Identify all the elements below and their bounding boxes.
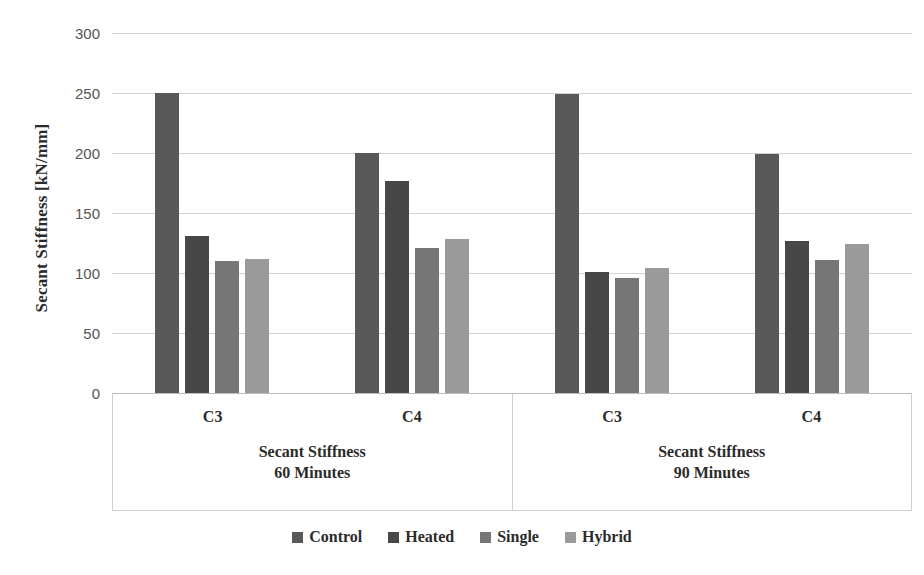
category-label-c4: C4 [712,394,911,440]
y-tick-label-100: 100 [75,265,100,282]
bar-heated-cat3 [785,241,809,393]
category-label-c3: C3 [113,394,312,440]
category-label-c3: C3 [513,394,712,440]
bars-layer [112,33,912,393]
y-tick-label-250: 250 [75,85,100,102]
bar-hybrid-cat3 [845,244,869,393]
legend-item-heated[interactable]: Heated [388,528,454,546]
bar-control-cat3 [755,154,779,393]
legend-swatch-icon [388,532,399,543]
bar-control-cat1 [355,153,379,393]
category-inner-row: C3C4 [513,394,912,440]
category-inner-row: C3C4 [113,394,512,440]
category-group-1: C3C4Secant Stiffness90 Minutes [512,394,912,510]
category-group-label-line1: Secant Stiffness [259,443,366,460]
chart-legend: ControlHeatedSingleHybrid [0,528,924,546]
y-axis-title: Secant Stiffness [kN/mm] [32,58,52,378]
y-tick-label-300: 300 [75,25,100,42]
category-group-label: Secant Stiffness60 Minutes [113,440,512,510]
bar-heated-cat0 [185,236,209,393]
legend-swatch-icon [480,532,491,543]
y-tick-label-200: 200 [75,145,100,162]
y-tick-label-0: 0 [92,385,100,402]
y-tick-label-50: 50 [83,325,100,342]
category-group-0: C3C4Secant Stiffness60 Minutes [113,394,512,510]
category-label-c4: C4 [312,394,511,440]
legend-swatch-icon [292,532,303,543]
bar-heated-cat1 [385,181,409,393]
y-tick-label-150: 150 [75,205,100,222]
legend-item-control[interactable]: Control [292,528,362,546]
category-axis: C3C4Secant Stiffness60 MinutesC3C4Secant… [112,393,912,511]
secant-stiffness-bar-chart: Secant Stiffness [kN/mm] 300250200150100… [0,0,924,575]
legend-item-single[interactable]: Single [480,528,539,546]
category-group-label-line1: Secant Stiffness [658,443,765,460]
bar-single-cat2 [615,278,639,393]
category-group-label: Secant Stiffness90 Minutes [513,440,912,510]
bar-single-cat3 [815,260,839,393]
bar-hybrid-cat1 [445,239,469,393]
legend-label: Hybrid [582,528,632,546]
bar-control-cat0 [155,93,179,393]
bar-control-cat2 [555,94,579,393]
legend-swatch-icon [565,532,576,543]
legend-label: Heated [405,528,454,546]
legend-label: Control [309,528,362,546]
bar-hybrid-cat2 [645,268,669,393]
bar-hybrid-cat0 [245,259,269,393]
category-group-label-line2: 90 Minutes [674,464,750,481]
legend-label: Single [497,528,539,546]
category-group-label-line2: 60 Minutes [274,464,350,481]
bar-heated-cat2 [585,272,609,393]
plot-area: 300250200150100500 [112,33,912,393]
legend-item-hybrid[interactable]: Hybrid [565,528,632,546]
bar-single-cat0 [215,261,239,393]
bar-single-cat1 [415,248,439,393]
